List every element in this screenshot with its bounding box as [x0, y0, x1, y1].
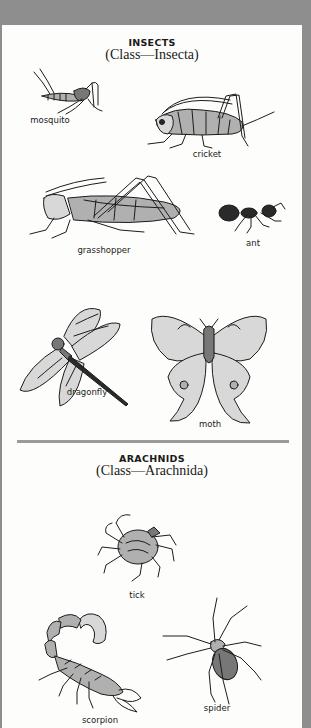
dragonfly-label: dragonfly: [67, 387, 107, 397]
mosquito-illustration: [30, 69, 110, 114]
grasshopper-illustration: [24, 172, 199, 242]
tick-illustration: [94, 509, 184, 581]
section-divider: [17, 440, 289, 443]
mosquito-label: mosquito: [30, 115, 70, 125]
spider-illustration: [157, 598, 272, 708]
scorpion-illustration: [37, 608, 147, 713]
cricket-illustration: [142, 90, 277, 150]
arachnids-subheading: (Class—Arachnida): [2, 463, 302, 479]
illustration-page: INSECTS (Class—Insecta) mosquito: [2, 25, 302, 728]
grasshopper-label: grasshopper: [77, 245, 130, 255]
ant-illustration: [217, 201, 287, 233]
spider-label: spider: [204, 703, 230, 713]
tick-label: tick: [129, 590, 144, 600]
cricket-label: cricket: [193, 149, 221, 159]
insects-subheading: (Class—Insecta): [2, 47, 302, 63]
ant-label: ant: [246, 238, 260, 248]
moth-illustration: [150, 313, 268, 428]
moth-label: moth: [199, 419, 221, 429]
scorpion-label: scorpion: [82, 715, 118, 725]
